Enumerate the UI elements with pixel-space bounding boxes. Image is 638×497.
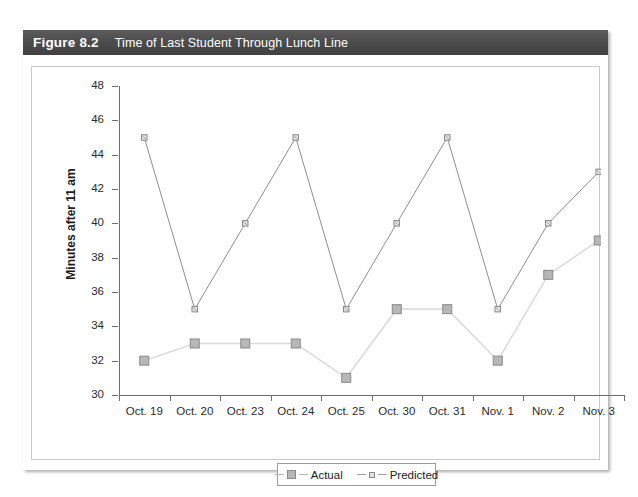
data-point-actual xyxy=(594,236,601,245)
legend-label-predicted: Predicted xyxy=(390,469,439,481)
figure-header-bar: Figure 8.2 Time of Last Student Through … xyxy=(23,30,608,55)
data-point-actual xyxy=(190,339,199,348)
legend-entry-actual: Actual xyxy=(275,469,343,481)
data-point-actual xyxy=(291,339,300,348)
data-point-actual xyxy=(392,305,401,314)
figure-title-label: Time of Last Student Through Lunch Line xyxy=(115,36,348,50)
plot-frame: Minutes after 11 am 30323436384042444648… xyxy=(31,66,600,460)
legend-line-actual-right xyxy=(299,474,308,475)
legend-line-predicted xyxy=(357,474,366,475)
legend-label-actual: Actual xyxy=(311,469,343,481)
legend-line-predicted-right xyxy=(378,474,387,475)
figure-number-label: Figure 8.2 xyxy=(33,35,99,50)
legend-marker-predicted-icon xyxy=(369,472,375,478)
chart-legend: Actual Predicted xyxy=(277,463,436,486)
data-point-actual xyxy=(493,356,502,365)
legend-marker-actual-icon xyxy=(287,470,296,479)
data-point-actual xyxy=(241,339,250,348)
legend-entry-predicted: Predicted xyxy=(357,469,439,481)
x-axis-tick xyxy=(624,395,625,401)
chart-plot xyxy=(32,67,601,461)
data-point-actual xyxy=(443,305,452,314)
data-point-actual xyxy=(140,356,149,365)
data-point-actual xyxy=(544,270,553,279)
series-line-actual xyxy=(144,241,599,378)
figure-card: Figure 8.2 Time of Last Student Through … xyxy=(23,30,608,470)
data-point-actual xyxy=(342,373,351,382)
legend-line-actual xyxy=(275,474,284,475)
series-line-predicted xyxy=(144,138,599,310)
